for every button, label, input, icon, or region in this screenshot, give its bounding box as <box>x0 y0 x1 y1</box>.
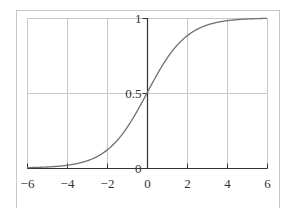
y-tick-label: 1 <box>135 11 142 26</box>
x-tick-label: 2 <box>184 176 191 191</box>
y-tick-label: 0.5 <box>125 86 141 101</box>
x-tick-label: 6 <box>264 176 271 191</box>
x-tick-label: 4 <box>224 176 231 191</box>
x-tick-label: −2 <box>101 176 115 191</box>
x-tick-label: −6 <box>21 176 35 191</box>
x-tick-label: −4 <box>61 176 75 191</box>
sigmoid-chart: −6−4−2024600.51 <box>0 0 292 208</box>
y-tick-label: 0 <box>135 161 142 176</box>
x-tick-label: 0 <box>144 176 151 191</box>
tick-labels: −6−4−2024600.51 <box>21 11 272 191</box>
